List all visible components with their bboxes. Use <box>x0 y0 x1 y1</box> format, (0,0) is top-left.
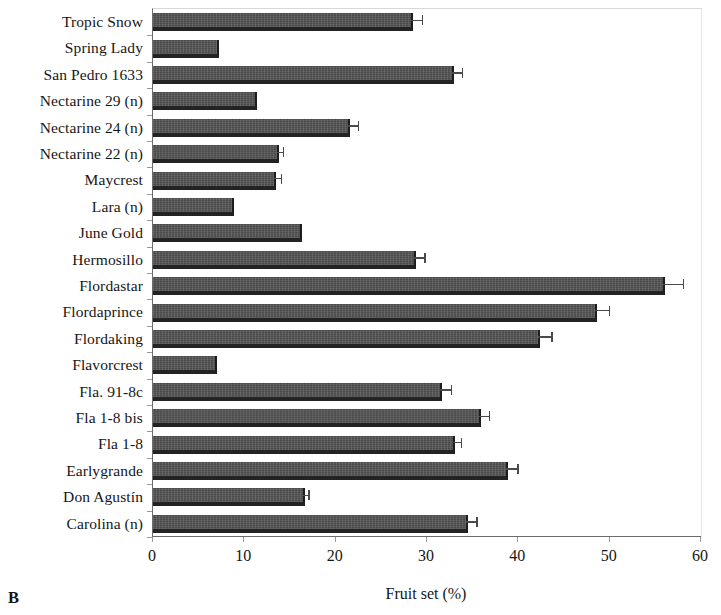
category-label: Fla 1-8 bis <box>0 405 143 431</box>
x-axis-title: Fruit set (%) <box>152 585 700 603</box>
bar-row: Nectarine 29 (n) <box>0 88 721 114</box>
bar <box>153 356 217 374</box>
error-bar-cap <box>451 385 452 395</box>
category-label: Flordaking <box>0 326 143 352</box>
error-bar-cap <box>489 411 490 421</box>
error-bar-cap <box>422 15 423 25</box>
bar-row: Tropic Snow <box>0 9 721 35</box>
bar <box>153 172 276 190</box>
figure-panel-b: Tropic SnowSpring LadySan Pedro 1633Nect… <box>0 0 721 615</box>
bar-row: Flordastar <box>0 273 721 299</box>
bar <box>153 92 257 110</box>
category-label: Flordastar <box>0 273 143 299</box>
bar-row: Fla 1-8 <box>0 431 721 457</box>
bar <box>153 488 305 506</box>
x-axis-tick-label: 20 <box>305 547 365 565</box>
bar <box>153 66 454 84</box>
error-bar-cap <box>308 490 309 500</box>
category-label: Earlygrande <box>0 458 143 484</box>
bar-row: Maycrest <box>0 167 721 193</box>
error-bar-cap <box>609 306 610 316</box>
bar-row: Fla 1-8 bis <box>0 405 721 431</box>
x-axis-tick <box>335 537 336 542</box>
category-label: Carolina (n) <box>0 511 143 537</box>
category-label: Flavorcrest <box>0 352 143 378</box>
category-label: Spring Lady <box>0 35 143 61</box>
bar <box>153 40 219 58</box>
bar-row: Fla. 91-8c <box>0 379 721 405</box>
bar-row: San Pedro 1633 <box>0 62 721 88</box>
bar <box>153 409 481 427</box>
bar-row: Hermosillo <box>0 247 721 273</box>
x-axis-tick-label: 30 <box>396 547 456 565</box>
error-bar-line <box>466 521 476 522</box>
error-bar-line <box>538 336 551 337</box>
bar-row: Don Agustín <box>0 484 721 510</box>
category-label: Maycrest <box>0 167 143 193</box>
error-bar-line <box>440 389 451 390</box>
error-bar-cap <box>358 121 359 131</box>
bar <box>153 198 234 216</box>
category-label: Nectarine 24 (n) <box>0 115 143 141</box>
error-bar-line <box>663 284 683 285</box>
error-bar-line <box>595 310 609 311</box>
bar <box>153 436 455 454</box>
error-bar-line <box>274 178 281 179</box>
category-label: Lara (n) <box>0 194 143 220</box>
bar <box>153 304 597 322</box>
x-axis-tick <box>426 537 427 542</box>
category-label: June Gold <box>0 220 143 246</box>
category-label: Fla. 91-8c <box>0 379 143 405</box>
bar-row: Nectarine 22 (n) <box>0 141 721 167</box>
bar <box>153 330 540 348</box>
bar <box>153 13 413 31</box>
panel-label: B <box>8 588 19 608</box>
bar <box>153 462 508 480</box>
error-bar-cap <box>683 279 684 289</box>
x-axis-tick <box>609 537 610 542</box>
bar-row: Lara (n) <box>0 194 721 220</box>
error-bar-cap <box>476 517 477 527</box>
x-axis-tick <box>152 537 153 542</box>
error-bar-line <box>452 72 462 73</box>
bar-row: Earlygrande <box>0 458 721 484</box>
x-axis-tick-label: 40 <box>487 547 547 565</box>
bar-row: Nectarine 24 (n) <box>0 115 721 141</box>
x-axis-tick <box>517 537 518 542</box>
category-label: Hermosillo <box>0 247 143 273</box>
error-bar-cap <box>281 174 282 184</box>
x-axis-tick-label: 10 <box>213 547 273 565</box>
category-label: Tropic Snow <box>0 9 143 35</box>
bar <box>153 277 665 295</box>
x-axis-tick <box>700 537 701 542</box>
category-label: Don Agustín <box>0 484 143 510</box>
category-label: Flordaprince <box>0 299 143 325</box>
error-bar-line <box>411 20 422 21</box>
x-axis-tick-label: 60 <box>670 547 721 565</box>
bar-row: Carolina (n) <box>0 511 721 537</box>
bar-row: Flavorcrest <box>0 352 721 378</box>
error-bar-cap <box>461 438 462 448</box>
error-bar-cap <box>462 68 463 78</box>
x-axis-tick-label: 50 <box>579 547 639 565</box>
category-label: Nectarine 29 (n) <box>0 88 143 114</box>
x-axis-tick <box>243 537 244 542</box>
bar <box>153 145 279 163</box>
category-label: San Pedro 1633 <box>0 62 143 88</box>
bar <box>153 224 302 242</box>
error-bar-cap <box>283 147 284 157</box>
bar <box>153 515 468 533</box>
error-bar-cap <box>551 332 552 342</box>
error-bar-line <box>479 416 489 417</box>
error-bar-cap <box>424 253 425 263</box>
bar <box>153 251 416 269</box>
error-bar-line <box>348 125 357 126</box>
bar-row: Flordaprince <box>0 299 721 325</box>
bar-row: Flordaking <box>0 326 721 352</box>
category-label: Fla 1-8 <box>0 431 143 457</box>
error-bar-line <box>506 468 518 469</box>
category-label: Nectarine 22 (n) <box>0 141 143 167</box>
bar-row: Spring Lady <box>0 35 721 61</box>
error-bar-line <box>453 442 461 443</box>
bar <box>153 383 442 401</box>
